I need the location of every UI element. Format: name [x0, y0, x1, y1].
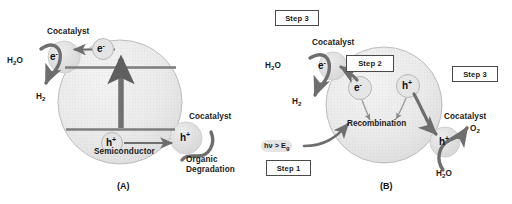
conduction-electron-label-a: e- — [97, 42, 105, 54]
cocatalyst-label-right-a: Cocatalyst — [189, 112, 231, 122]
h2o-label-left-a: H2O — [7, 56, 23, 67]
recombination-label-b: Recombination — [347, 119, 406, 128]
h2-label-left-b: H2 — [292, 97, 302, 108]
h2-label-left-a: H2 — [36, 92, 46, 103]
cocatalyst-electron-label-a: e- — [50, 50, 58, 62]
panel-a-tag: (A) — [117, 181, 130, 191]
step-3-box-right[interactable]: Step 3 — [452, 66, 498, 82]
organic-degradation-label-a: Organic Degradation — [186, 155, 252, 175]
cocatalyst-electron-label-b: e- — [318, 59, 326, 71]
step-2-box[interactable]: Step 2 — [346, 55, 394, 72]
bulk-hole-label-b: h+ — [402, 79, 412, 91]
cocatalyst-label-left-b: Cocatalyst — [312, 38, 354, 48]
o2-label-b: O2 — [470, 124, 480, 135]
semiconductor-label-a: Semiconductor — [94, 147, 155, 157]
figure-root: Cocatalyst H2O H2 e- e- h+ h+ Semiconduc… — [0, 0, 512, 204]
cocatalyst-label-left-a: Cocatalyst — [47, 27, 89, 37]
step-3-box-top[interactable]: Step 3 — [275, 10, 319, 26]
step-1-box[interactable]: Step 1 — [266, 160, 311, 176]
h2o-label-right-b: H2O — [436, 169, 452, 180]
cocatalyst-hole-label-a: h+ — [180, 131, 190, 143]
photon-energy-label-b: hν > Eg — [261, 140, 292, 152]
h2o-label-left-b: H2O — [265, 61, 281, 72]
panel-b-tag: (B) — [380, 181, 393, 191]
panel-a: Cocatalyst H2O H2 e- e- h+ h+ Semiconduc… — [0, 0, 256, 204]
bulk-electron-label-b: e- — [354, 81, 362, 93]
cocatalyst-hole-label-b: h+ — [439, 135, 449, 147]
valence-hole-label-a: h+ — [106, 136, 116, 148]
panel-b: Step 3 Step 2 Step 3 Step 1 hν > Eg Coca… — [256, 0, 512, 204]
cocatalyst-label-right-b: Cocatalyst — [444, 112, 486, 122]
